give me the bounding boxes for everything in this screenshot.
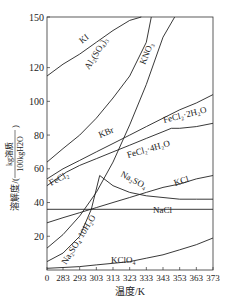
y-axis-title-numerator: kg溶质	[4, 142, 14, 166]
curves	[47, 17, 213, 268]
x-tick-label: 313	[106, 273, 120, 283]
x-tick-label: 303	[90, 273, 104, 283]
y-tick-label: 20	[34, 231, 44, 242]
y-axis-title: 溶解度/( kg溶质 100kgH2O )	[4, 125, 25, 211]
curve-label: Na₂SO₄	[119, 169, 149, 191]
x-tick-label: 343	[156, 273, 170, 283]
y-tick-label: 120	[29, 62, 44, 73]
x-axis-title: 温度/K	[115, 285, 146, 297]
y-tick-label: 60	[34, 163, 44, 174]
y-axis-title-suffix: )	[10, 125, 20, 128]
x-tick-label: 333	[140, 273, 154, 283]
x-tick-label: 353	[173, 273, 187, 283]
curve-fecl2-2h2o	[171, 123, 213, 128]
curve-label: KClO₄	[111, 255, 136, 265]
y-tick-label: 40	[34, 197, 44, 208]
curve-label: KI	[77, 32, 91, 46]
curve-label: Na₂SO₄·10H₂O	[59, 212, 98, 266]
x-tick-label: 363	[190, 273, 204, 283]
y-tick-label: 80	[34, 130, 44, 141]
x-tick-label: 293	[73, 273, 87, 283]
curve-label: KCl	[173, 174, 191, 188]
curve-label: FeCl₂	[47, 169, 70, 188]
x-tick-label: 283	[56, 273, 70, 283]
y-axis-title-prefix: 溶解度/(	[9, 178, 20, 211]
x-axis: 0283293303313323333343353363373	[45, 267, 221, 283]
y-tick-label: 100	[29, 96, 44, 107]
y-tick-label: 150	[29, 12, 44, 23]
x-tick-label: 323	[123, 273, 137, 283]
curve-kbr	[47, 95, 213, 179]
plot-frame	[47, 17, 213, 270]
curve-label: KBr	[97, 125, 115, 140]
x-tick-label: 373	[206, 273, 220, 283]
curve-label: NaCl	[153, 205, 172, 215]
y-axis-title-denominator: 100kgH2O	[16, 136, 25, 172]
chart-canvas: 20406080100120150 0283293303313323333343…	[0, 0, 228, 303]
curve-label: KNO₃	[138, 41, 156, 66]
x-tick-label: 0	[45, 273, 50, 283]
curve-labels: KIAl₂(SO₄)₃KNO₃KBrFeCl₂·2H₂OFeCl₂·4H₂OFe…	[47, 32, 208, 266]
curve-label: FeCl₂·4H₂O	[126, 138, 172, 160]
solubility-chart: 20406080100120150 0283293303313323333343…	[0, 0, 228, 303]
